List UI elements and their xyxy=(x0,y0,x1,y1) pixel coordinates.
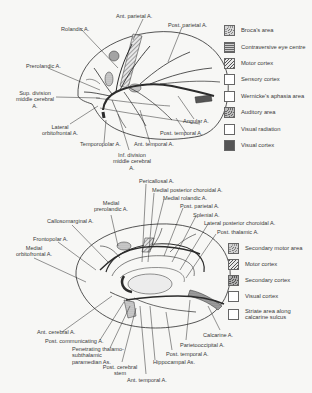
label-rolandic-artery: Rolandic A. xyxy=(61,26,89,32)
label-medial-post-choroidal-artery: Medial posterior choroidal A. xyxy=(152,187,223,193)
label-prerolandic-artery: Prerolandic A. xyxy=(26,63,61,69)
label-post-temporal-artery: Post. temporal A. xyxy=(160,130,203,136)
label-temporopolar-artery: Temporopolar A. xyxy=(80,141,121,147)
legend-item-striate-area: Striate area along calcarine sulcus xyxy=(228,308,291,321)
legend-item-motor-cortex-medial: Motor cortex xyxy=(228,259,277,270)
legend-item-auditory-area: Auditory area xyxy=(224,107,275,118)
legend-item-sensory-cortex: Sensory cortex xyxy=(224,74,280,85)
legend-item-visual-cortex-medial: Visual cortex xyxy=(228,291,278,302)
label-lateral-orbitofrontal-artery: Lateral orbitofrontal A. xyxy=(38,124,82,137)
label-ant-parietal-artery: Ant. parietal A. xyxy=(116,13,152,19)
label-hippocampal-arteries: Hippocampal As. xyxy=(153,359,195,365)
label-frontopolar-artery: Frontopolar A. xyxy=(33,236,68,242)
stipple-swatch-icon xyxy=(224,25,235,36)
medial-brain-view xyxy=(76,224,230,328)
legend-item-contraversive-eye-centre: Contraversive eye centre xyxy=(224,42,305,53)
label-ant-temporal-artery: Ant. temporal A. xyxy=(134,141,174,147)
label-medial-prerolandic-artery: Medial prerolandic A. xyxy=(86,200,136,213)
label-penetrating-thalamo-subthalamic: Penetrating thalamo- subthalamic paramed… xyxy=(72,346,124,365)
label-angular-artery: Angular A. xyxy=(183,118,209,124)
dark-swatch-icon xyxy=(224,140,235,151)
legend-item-secondary-motor-area: Secondary motor area xyxy=(228,243,302,254)
label-pericallosal-artery: Pericallosal A. xyxy=(139,178,174,184)
label-post-communicating-artery: Post. communicating A. xyxy=(45,338,103,344)
stipple-swatch-icon xyxy=(228,243,239,254)
label-post-cerebral-stem: Post. cerebral stem xyxy=(100,364,140,377)
legend-item-wernickes-area: Wernicke's aphasia area xyxy=(224,91,304,102)
blank-swatch-icon xyxy=(224,91,235,102)
blank-swatch-icon xyxy=(224,124,235,135)
blank-swatch-icon xyxy=(228,309,239,320)
label-sup-division-mca: Sup. division middle cerebral A. xyxy=(12,90,58,109)
label-medial-orbitofrontal-artery: Medial orbitofrontal A. xyxy=(10,245,58,258)
label-parietooccipital-artery: Parietooccipital A. xyxy=(180,342,224,348)
stipple-swatch-icon xyxy=(224,107,235,118)
label-post-temporal-artery-medial: Post. temporal A. xyxy=(166,351,209,357)
diagonal-hatch-swatch-icon xyxy=(228,259,239,270)
blank-swatch-icon xyxy=(228,291,239,302)
horizontal-hatch-swatch-icon xyxy=(224,42,235,53)
legend-item-visual-cortex: Visual cortex xyxy=(224,140,274,151)
diagonal-hatch-swatch-icon xyxy=(224,58,235,69)
label-ant-temporal-artery-medial: Ant. temporal A. xyxy=(127,377,167,383)
label-calcarine-artery: Calcarine A. xyxy=(203,332,233,338)
label-lateral-post-choroidal-artery: Lateral posterior choroidal A. xyxy=(204,220,275,226)
legend-item-secondary-cortex: Secondary cortex xyxy=(228,275,290,286)
dark-stipple-swatch-icon xyxy=(228,275,239,286)
label-post-parietal-artery-medial: Post. parietal A. xyxy=(180,203,219,209)
blank-swatch-icon xyxy=(224,74,235,85)
legend-item-motor-cortex: Motor cortex xyxy=(224,58,273,69)
legend-item-brocas-area: Broca's area xyxy=(224,25,273,36)
label-inf-division-mca: Inf. division middle cerebral A. xyxy=(110,152,154,171)
label-post-parietal-artery: Post. parietal A. xyxy=(168,22,207,28)
label-ant-cerebral-artery: Ant. cerebral A. xyxy=(37,329,75,335)
legend-item-visual-radiation: Visual radiation xyxy=(224,124,281,135)
label-post-thalamic-artery: Post. thalamic A. xyxy=(217,229,259,235)
label-splenial-artery: Splenial A. xyxy=(193,212,219,218)
label-medial-rolandic-artery: Medial rolandic A. xyxy=(163,195,207,201)
label-callosomarginal-artery: Callosomarginal A. xyxy=(47,218,94,224)
